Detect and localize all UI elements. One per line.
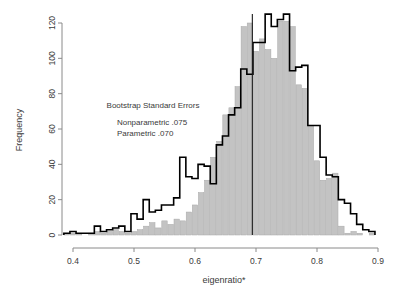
histogram-bar [259, 39, 264, 235]
y-tick-label: 100 [47, 51, 57, 65]
x-tick-label: 0.4 [67, 256, 79, 266]
x-tick-label: 0.6 [189, 256, 201, 266]
histogram-bar [357, 233, 362, 235]
histogram-bar [95, 231, 100, 235]
y-tick-label: 40 [47, 159, 57, 169]
histogram-bar [339, 226, 344, 235]
histogram-bar [290, 27, 295, 235]
annotation-line: Parametric .070 [117, 129, 174, 138]
histogram-bar [327, 178, 332, 235]
y-axis-title: Frequency [14, 108, 24, 151]
x-tick-label: 0.7 [250, 256, 262, 266]
annotation-line: Nonparametric .075 [117, 118, 188, 127]
chart-root: 0.40.50.60.70.80.9 020406080100120 eigen… [0, 0, 401, 297]
histogram-bar [235, 87, 240, 235]
histogram-bar [211, 157, 216, 235]
histogram-bar [150, 223, 155, 235]
histogram-bar [107, 231, 112, 235]
histogram-bar [320, 180, 325, 235]
histogram-bar [168, 224, 173, 235]
histogram-bar [198, 193, 203, 235]
y-tick-label: 60 [47, 124, 57, 134]
plot-background [0, 0, 401, 297]
histogram-bar [180, 221, 185, 235]
histogram-bar [272, 58, 277, 235]
y-tick-label: 20 [47, 195, 57, 205]
x-tick-label: 0.8 [311, 256, 323, 266]
histogram-bar [137, 230, 142, 235]
histogram-bar [113, 230, 118, 235]
histogram-bar [125, 233, 130, 235]
histogram-bar [162, 221, 167, 235]
y-tick-label: 120 [47, 16, 57, 30]
histogram-bar [223, 115, 228, 235]
histogram-bar [369, 233, 374, 235]
histogram-bar [314, 161, 319, 235]
histogram-bar [333, 173, 338, 235]
histogram-bar [278, 21, 283, 235]
histogram-bar [192, 205, 197, 235]
histogram-bar [186, 212, 191, 235]
histogram-bar [302, 88, 307, 235]
histogram-bar [241, 27, 246, 235]
histogram-bar [156, 228, 161, 235]
histogram-bar [229, 108, 234, 235]
histogram-plot: 0.40.50.60.70.80.9 020406080100120 eigen… [0, 0, 401, 297]
annotation-title: Bootstrap Standard Errors [107, 101, 200, 110]
histogram-bar [217, 141, 222, 235]
histogram-bar [205, 180, 210, 235]
histogram-bar [131, 231, 136, 235]
x-axis-title: eigenratio* [202, 275, 246, 285]
histogram-bar [119, 231, 124, 235]
histogram-bar [174, 219, 179, 235]
histogram-bar [308, 125, 313, 235]
histogram-bar [70, 233, 75, 235]
histogram-bar [266, 50, 271, 236]
histogram-bar [284, 21, 289, 235]
y-tick-label: 80 [47, 89, 57, 99]
histogram-bar [296, 85, 301, 235]
histogram-bar [101, 233, 106, 235]
y-tick-label: 0 [47, 232, 57, 237]
histogram-bar [253, 51, 258, 235]
x-tick-label: 0.9 [372, 256, 384, 266]
x-tick-label: 0.5 [128, 256, 140, 266]
histogram-bar [351, 231, 356, 235]
histogram-bar [144, 226, 149, 235]
histogram-bar [345, 233, 350, 235]
